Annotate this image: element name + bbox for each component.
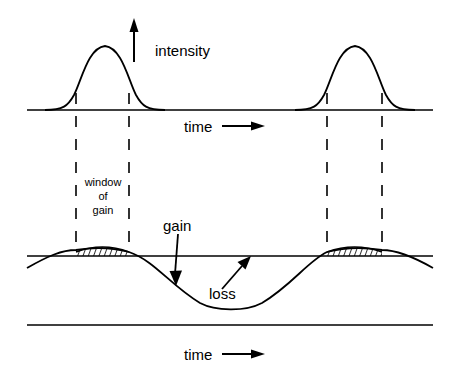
window-of-gain-guides	[76, 93, 382, 252]
time-axis-label-bottom: time	[184, 347, 212, 362]
intensity-arrow	[130, 18, 139, 62]
window-of-gain-label-line2: of	[77, 191, 129, 202]
diagram-canvas	[0, 0, 458, 382]
time-arrow-top	[222, 122, 265, 131]
pulse-2-curve	[295, 46, 415, 110]
window-of-gain-label-line1: window	[77, 177, 129, 188]
time-axis-label-top: time	[184, 119, 212, 134]
intensity-axis-label: intensity	[155, 43, 210, 58]
loss-curve-label: loss	[209, 286, 236, 301]
gain-window-figure: intensity time window of gain gain loss …	[0, 0, 458, 382]
gain-arrow	[170, 234, 183, 286]
gain-curve-label: gain	[163, 218, 191, 233]
pulse-1-curve	[45, 46, 165, 110]
window-of-gain-label-line3: gain	[77, 205, 129, 216]
time-arrow-bottom	[222, 350, 265, 359]
intensity-panel	[27, 18, 433, 131]
